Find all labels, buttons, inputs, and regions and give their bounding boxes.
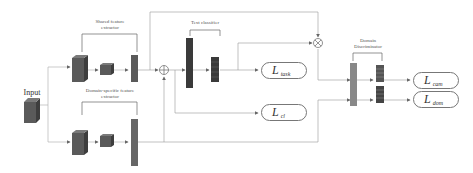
loss-subscript: dom [433,100,443,106]
domain-extractor [72,102,138,166]
text-classifier-label: Text classifier [185,20,225,26]
loss-symbol: L [272,105,279,120]
multiply-operator-icon [314,39,323,48]
shared-extractor-label: Shared feature extractor [88,19,132,31]
loss-symbol: L [424,73,431,88]
loss-dom: Ldom [413,91,459,108]
loss-subscript: task [281,71,291,77]
input-label: Input [18,88,46,97]
loss-symbol: L [424,92,431,107]
diagram-canvas [0,0,473,173]
loss-cl: Lcl [261,104,307,121]
shared-extractor [72,34,138,82]
add-operator-icon [160,66,169,75]
domain-extractor-label: Domain-specific feature extractor [84,88,136,100]
domain-discriminator-label: Domain Discriminator [352,38,384,50]
input-cube [24,98,40,123]
loss-subscript: cam [433,81,443,87]
loss-subscript: cl [281,113,285,119]
loss-task: Ltask [261,62,307,79]
input-branch-lines [40,67,70,142]
loss-symbol: L [272,63,279,78]
loss-cam: Lcam [413,72,459,89]
text-classifier [186,30,220,88]
domain-discriminator [350,53,384,106]
